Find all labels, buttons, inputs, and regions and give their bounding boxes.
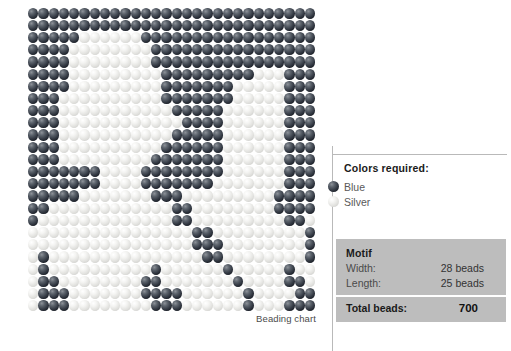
silver-bead-icon[interactable] [213,202,223,214]
blue-bead-icon[interactable] [151,300,161,312]
silver-bead-icon[interactable] [295,239,305,251]
blue-bead-icon[interactable] [90,178,100,190]
blue-bead-icon[interactable] [192,117,202,129]
silver-bead-icon[interactable] [49,263,59,275]
silver-bead-icon[interactable] [120,275,130,287]
blue-bead-icon[interactable] [305,19,315,31]
silver-bead-icon[interactable] [141,202,151,214]
blue-bead-icon[interactable] [172,31,182,43]
silver-bead-icon[interactable] [233,300,243,312]
silver-bead-icon[interactable] [161,251,171,263]
silver-bead-icon[interactable] [223,287,233,299]
silver-bead-icon[interactable] [233,105,243,117]
silver-bead-icon[interactable] [243,92,253,104]
silver-bead-icon[interactable] [100,56,110,68]
silver-bead-icon[interactable] [141,80,151,92]
silver-bead-icon[interactable] [120,153,130,165]
silver-bead-icon[interactable] [202,287,212,299]
blue-bead-icon[interactable] [284,165,294,177]
silver-bead-icon[interactable] [69,141,79,153]
silver-bead-icon[interactable] [110,263,120,275]
silver-bead-icon[interactable] [243,141,253,153]
silver-bead-icon[interactable] [151,239,161,251]
silver-bead-icon[interactable] [223,239,233,251]
silver-bead-icon[interactable] [161,214,171,226]
blue-bead-icon[interactable] [120,7,130,19]
silver-bead-icon[interactable] [161,129,171,141]
blue-bead-icon[interactable] [38,287,48,299]
silver-bead-icon[interactable] [264,287,274,299]
silver-bead-icon[interactable] [141,226,151,238]
blue-bead-icon[interactable] [28,80,38,92]
blue-bead-icon[interactable] [182,153,192,165]
blue-bead-icon[interactable] [59,300,69,312]
silver-bead-icon[interactable] [264,68,274,80]
blue-bead-icon[interactable] [182,56,192,68]
silver-bead-icon[interactable] [110,287,120,299]
silver-bead-icon[interactable] [69,275,79,287]
blue-bead-icon[interactable] [284,68,294,80]
silver-bead-icon[interactable] [264,214,274,226]
silver-bead-icon[interactable] [69,92,79,104]
blue-bead-icon[interactable] [213,153,223,165]
blue-bead-icon[interactable] [213,56,223,68]
silver-bead-icon[interactable] [131,300,141,312]
silver-bead-icon[interactable] [120,31,130,43]
silver-bead-icon[interactable] [141,141,151,153]
silver-bead-icon[interactable] [110,239,120,251]
blue-bead-icon[interactable] [284,178,294,190]
silver-bead-icon[interactable] [141,251,151,263]
silver-bead-icon[interactable] [141,153,151,165]
silver-bead-icon[interactable] [274,80,284,92]
silver-bead-icon[interactable] [110,105,120,117]
silver-bead-icon[interactable] [264,178,274,190]
blue-bead-icon[interactable] [192,178,202,190]
blue-bead-icon[interactable] [213,80,223,92]
silver-bead-icon[interactable] [264,80,274,92]
silver-bead-icon[interactable] [223,178,233,190]
blue-bead-icon[interactable] [28,31,38,43]
blue-bead-icon[interactable] [38,19,48,31]
blue-bead-icon[interactable] [254,31,264,43]
silver-bead-icon[interactable] [90,31,100,43]
blue-bead-icon[interactable] [305,117,315,129]
blue-bead-icon[interactable] [295,275,305,287]
blue-bead-icon[interactable] [233,44,243,56]
blue-bead-icon[interactable] [38,7,48,19]
silver-bead-icon[interactable] [141,56,151,68]
blue-bead-icon[interactable] [295,190,305,202]
blue-bead-icon[interactable] [305,251,315,263]
silver-bead-icon[interactable] [213,300,223,312]
silver-bead-icon[interactable] [90,275,100,287]
blue-bead-icon[interactable] [243,7,253,19]
silver-bead-icon[interactable] [69,80,79,92]
blue-bead-icon[interactable] [49,19,59,31]
silver-bead-icon[interactable] [223,214,233,226]
blue-bead-icon[interactable] [202,7,212,19]
silver-bead-icon[interactable] [274,287,284,299]
blue-bead-icon[interactable] [284,31,294,43]
blue-bead-icon[interactable] [151,153,161,165]
blue-bead-icon[interactable] [192,19,202,31]
silver-bead-icon[interactable] [69,153,79,165]
silver-bead-icon[interactable] [264,117,274,129]
silver-bead-icon[interactable] [151,68,161,80]
blue-bead-icon[interactable] [295,165,305,177]
silver-bead-icon[interactable] [182,239,192,251]
blue-bead-icon[interactable] [49,117,59,129]
silver-bead-icon[interactable] [274,117,284,129]
blue-bead-icon[interactable] [182,165,192,177]
blue-bead-icon[interactable] [141,165,151,177]
blue-bead-icon[interactable] [264,56,274,68]
silver-bead-icon[interactable] [100,141,110,153]
silver-bead-icon[interactable] [131,202,141,214]
silver-bead-icon[interactable] [182,263,192,275]
blue-bead-icon[interactable] [161,56,171,68]
silver-bead-icon[interactable] [254,129,264,141]
silver-bead-icon[interactable] [295,263,305,275]
silver-bead-icon[interactable] [100,44,110,56]
silver-bead-icon[interactable] [223,251,233,263]
blue-bead-icon[interactable] [182,202,192,214]
blue-bead-icon[interactable] [305,56,315,68]
silver-bead-icon[interactable] [161,275,171,287]
